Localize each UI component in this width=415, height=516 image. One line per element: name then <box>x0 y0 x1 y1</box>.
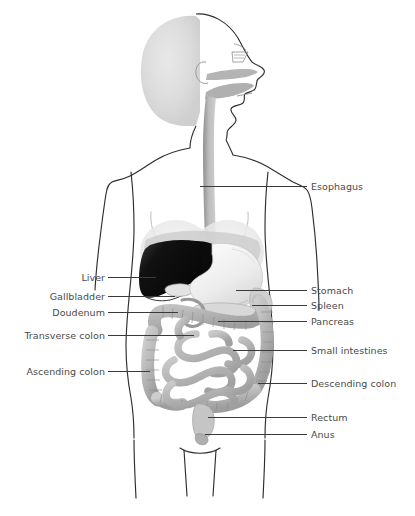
label-pancreas: Pancreas <box>311 316 354 327</box>
rectum <box>193 404 215 439</box>
digestive-system-figure: Esophagus Stomach Spleen Pancreas Small … <box>0 0 415 516</box>
label-stomach: Stomach <box>311 285 353 296</box>
label-rectum: Rectum <box>311 412 348 423</box>
oral-cavity-tongue <box>205 83 254 99</box>
label-doudenum: Doudenum <box>52 307 105 318</box>
label-descending-colon: Descending colon <box>311 378 396 389</box>
label-anus: Anus <box>311 429 335 440</box>
label-ascending-colon: Ascending colon <box>26 366 105 377</box>
label-gallbladder: Gallbladder <box>50 291 105 302</box>
label-small-intestines: Small intestines <box>311 345 388 356</box>
head-profile <box>141 14 265 155</box>
label-esophagus: Esophagus <box>311 181 363 192</box>
label-transverse-colon: Transverse colon <box>24 330 105 341</box>
esophagus-tube <box>203 96 216 242</box>
small-intestine <box>166 320 252 405</box>
anatomy-illustration <box>0 0 415 516</box>
label-liver: Liver <box>81 272 105 283</box>
label-spleen: Spleen <box>311 300 344 311</box>
